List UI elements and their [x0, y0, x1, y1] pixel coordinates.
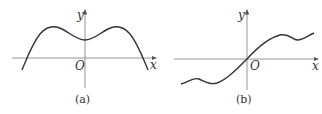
y-axis-label: y — [76, 8, 84, 22]
panel-b: y x O (b) — [174, 8, 319, 106]
x-axis-label: x — [312, 59, 319, 73]
figure: y x O (a) y x O (b) — [0, 0, 322, 114]
panel-a: y x O (a) — [12, 8, 157, 106]
origin-label: O — [250, 59, 260, 73]
origin-label: O — [75, 59, 85, 73]
y-axis-label: y — [237, 8, 245, 22]
caption-b: (b) — [236, 93, 252, 106]
curve-b — [181, 33, 314, 84]
caption-a: (a) — [75, 93, 90, 106]
x-axis-label: x — [150, 58, 157, 72]
